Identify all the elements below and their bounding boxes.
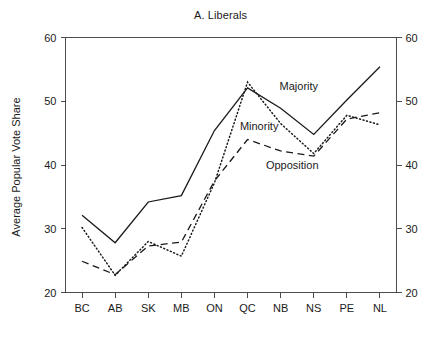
chart-title: A. Liberals (0, 9, 441, 21)
series-line-majority (82, 67, 380, 243)
y-tick-label-right: 50 (406, 95, 418, 107)
annotation-opposition: Opposition (266, 159, 319, 171)
annotation-majority: Majority (280, 80, 319, 92)
y-tick-label-left: 30 (44, 223, 56, 235)
y-tick-label-left: 50 (44, 95, 56, 107)
x-tick-label-nb: NB (273, 302, 288, 314)
axes (66, 38, 397, 293)
series-annotations: MajorityMinorityOpposition (240, 80, 319, 171)
x-tick-label-ns: NS (306, 302, 321, 314)
x-tick-label-ab: AB (108, 302, 123, 314)
plot-area: 2030405060 2030405060 BCABSKMBONQCNBNSPE… (0, 0, 441, 342)
y-axis-left-ticks: 2030405060 (44, 32, 65, 299)
y-axis-right-ticks: 2030405060 (397, 32, 418, 299)
x-axis-ticks: BCABSKMBONQCNBNSPENL (74, 293, 387, 314)
y-tick-label-left: 20 (44, 287, 56, 299)
x-tick-label-nl: NL (373, 302, 387, 314)
data-series (82, 67, 380, 275)
x-tick-label-on: ON (206, 302, 223, 314)
series-line-opposition (82, 113, 380, 275)
x-tick-label-pe: PE (340, 302, 355, 314)
x-tick-label-sk: SK (141, 302, 156, 314)
y-tick-label-right: 60 (406, 32, 418, 44)
y-tick-label-left: 60 (44, 32, 56, 44)
x-tick-label-qc: QC (239, 302, 256, 314)
chart-figure: A. Liberals Average Popular Vote Share 2… (0, 0, 441, 342)
y-tick-label-right: 30 (406, 223, 418, 235)
y-axis-label: Average Popular Vote Share (10, 33, 26, 301)
x-tick-label-mb: MB (173, 302, 190, 314)
annotation-minority: Minority (240, 120, 279, 132)
x-tick-label-bc: BC (74, 302, 89, 314)
y-tick-label-right: 20 (406, 287, 418, 299)
y-tick-label-left: 40 (44, 159, 56, 171)
y-tick-label-right: 40 (406, 159, 418, 171)
